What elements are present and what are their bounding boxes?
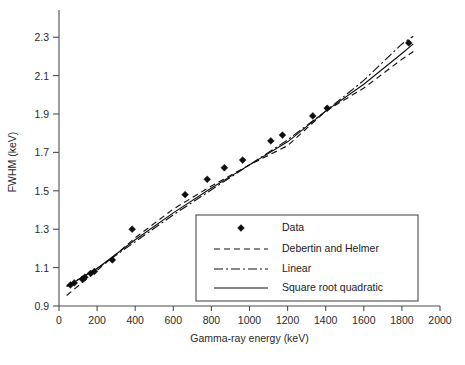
data-point-marker <box>239 157 246 164</box>
data-point-marker <box>182 191 189 198</box>
y-tick-label: 2.3 <box>34 31 49 43</box>
x-tick-label: 0 <box>56 314 62 326</box>
y-tick-label: 2.1 <box>34 70 49 82</box>
data-point-marker <box>109 257 116 264</box>
y-tick-label: 1.1 <box>34 262 49 274</box>
x-tick-label: 1200 <box>276 314 300 326</box>
y-tick-label: 1.9 <box>34 108 49 120</box>
y-tick-label: 1.3 <box>34 223 49 235</box>
x-tick-label: 2000 <box>428 314 452 326</box>
data-point-marker <box>324 105 331 112</box>
x-tick-label: 800 <box>203 314 221 326</box>
x-axis-title: Gamma-ray energy (keV) <box>190 332 308 344</box>
chart-figure: 02004006008001000120014001600180020000.9… <box>0 0 465 365</box>
legend-label-square-root-quadratic: Square root quadratic <box>282 281 383 293</box>
data-point-marker <box>279 132 286 139</box>
y-axis-title: FWHM (keV) <box>6 132 18 193</box>
x-tick-label: 1800 <box>390 314 414 326</box>
x-tick-label: 400 <box>126 314 144 326</box>
x-tick-label: 1000 <box>238 314 262 326</box>
data-point-marker <box>309 113 316 120</box>
x-tick-label: 1600 <box>352 314 376 326</box>
data-point-marker <box>129 226 136 233</box>
legend-label-debertin-and-helmer: Debertin and Helmer <box>282 242 379 254</box>
x-tick-label: 200 <box>88 314 106 326</box>
data-point-marker <box>221 164 228 171</box>
legend-label-data: Data <box>282 221 304 233</box>
x-tick-label: 600 <box>165 314 183 326</box>
chart-svg: 02004006008001000120014001600180020000.9… <box>0 0 465 365</box>
y-tick-label: 0.9 <box>34 300 49 312</box>
data-point-marker <box>267 137 274 144</box>
legend-label-linear: Linear <box>282 262 312 274</box>
x-tick-label: 1400 <box>314 314 338 326</box>
data-point-marker <box>204 176 211 183</box>
y-tick-label: 1.5 <box>34 185 49 197</box>
y-tick-label: 1.7 <box>34 146 49 158</box>
